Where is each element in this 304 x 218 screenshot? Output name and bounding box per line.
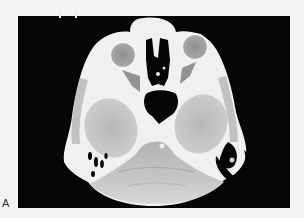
panel-label: A	[2, 197, 9, 209]
ct-scan-image	[18, 16, 290, 208]
orientation-markers	[59, 14, 79, 18]
ct-scan-drawing	[18, 16, 290, 208]
right-globe	[182, 34, 208, 60]
left-globe	[110, 42, 136, 68]
